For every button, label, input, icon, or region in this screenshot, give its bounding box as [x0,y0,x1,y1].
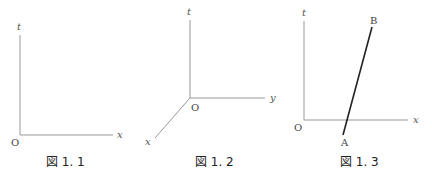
figure-canvas: t x O 図 1. 1 t y x O 図 1. 2 t x O A B 図 … [0,0,432,178]
t-axis-label: t [17,21,22,32]
x-axis-label: x [117,129,123,140]
point-b-label: B [370,15,377,26]
t-axis-label: t [302,7,307,18]
x-axis-label: x [145,136,151,147]
worldline-ab [343,27,372,135]
x-axis-label: x [413,114,419,125]
point-a-label: A [340,137,349,148]
y-axis-label: y [269,92,276,103]
figure-caption: 図 1. 1 [46,155,85,169]
figure-caption: 図 1. 3 [340,155,379,169]
figure-1-3: t x O A B 図 1. 3 [294,7,419,169]
t-axis-label: t [187,6,192,17]
x-axis [155,98,190,138]
origin-label: O [11,137,19,148]
figure-1-1: t x O 図 1. 1 [11,21,123,169]
figure-caption: 図 1. 2 [195,155,234,169]
figure-1-2: t y x O 図 1. 2 [145,6,276,169]
origin-label: O [294,122,302,133]
origin-label: O [191,102,199,113]
